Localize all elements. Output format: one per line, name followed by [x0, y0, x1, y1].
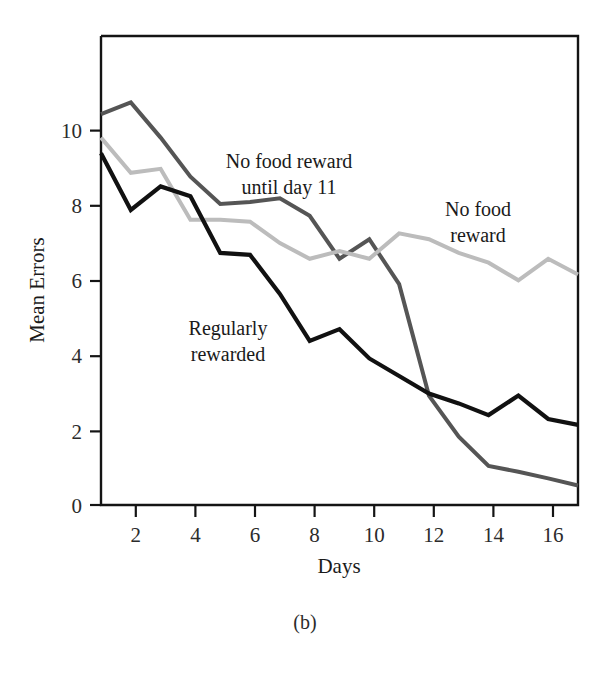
annotation-line-2: until day 11 [242, 176, 337, 199]
line-chart: 10 8 6 4 2 0 2 4 6 8 10 12 14 16 [0, 0, 610, 677]
x-axis-title: Days [317, 554, 360, 578]
annotation-line-2: reward [450, 224, 506, 246]
x-tick-label-12: 12 [423, 523, 444, 547]
series-line-regularly-rewarded [101, 153, 578, 425]
x-axis-ticks [136, 505, 553, 517]
y-axis-tick-labels: 10 8 6 4 2 0 [61, 119, 83, 518]
x-tick-label-4: 4 [190, 523, 201, 547]
annotation-no-food-until-11: No food reward until day 11 [226, 150, 353, 199]
y-axis-title: Mean Errors [25, 237, 49, 343]
x-tick-label-16: 16 [543, 523, 564, 547]
annotation-regularly-rewarded: Regularly rewarded [189, 317, 268, 365]
annotation-line-1: No food reward [226, 150, 353, 172]
x-tick-label-8: 8 [309, 523, 320, 547]
x-tick-label-10: 10 [364, 523, 385, 547]
y-tick-label-4: 4 [72, 344, 83, 368]
x-tick-label-6: 6 [250, 523, 261, 547]
x-tick-label-14: 14 [483, 523, 505, 547]
plot-frame [101, 36, 578, 505]
x-axis-tick-labels: 2 4 6 8 10 12 14 16 [131, 523, 564, 547]
y-tick-label-2: 2 [72, 420, 83, 444]
annotation-line-2: rewarded [191, 343, 265, 365]
y-tick-label-0: 0 [72, 494, 83, 518]
y-tick-label-10: 10 [61, 119, 82, 143]
plot-frame-path [101, 36, 578, 505]
x-tick-label-2: 2 [131, 523, 142, 547]
y-axis-ticks [90, 131, 101, 505]
annotation-no-food-reward: No food reward [445, 198, 511, 246]
y-tick-label-6: 6 [72, 269, 83, 293]
figure-container: 10 8 6 4 2 0 2 4 6 8 10 12 14 16 [0, 0, 610, 677]
chart-annotations: No food reward until day 11 No food rewa… [189, 150, 511, 365]
figure-caption: (b) [293, 611, 316, 634]
annotation-line-1: Regularly [189, 317, 268, 340]
annotation-line-1: No food [445, 198, 511, 220]
y-tick-label-8: 8 [72, 194, 83, 218]
